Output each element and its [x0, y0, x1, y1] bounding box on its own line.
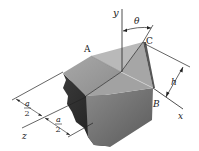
- x-axis-label: x: [178, 111, 183, 121]
- half-a-numerator-2: a: [56, 115, 61, 124]
- half-a-numerator-1: a: [25, 99, 30, 108]
- a-ext-line-top: [12, 72, 63, 100]
- point-a-label: A: [83, 44, 91, 54]
- h-extension-line: [145, 44, 190, 67]
- theta-arrow-left-icon: [123, 29, 127, 33]
- front-face: [86, 88, 153, 147]
- prism-diagram: y θ C A B x h z a 2 a 2: [0, 0, 199, 151]
- y-axis-label: y: [112, 7, 119, 18]
- z-axis-label: z: [21, 131, 27, 141]
- theta-arc: [123, 27, 151, 31]
- h-label: h: [171, 77, 177, 87]
- point-b-label: B: [152, 99, 160, 109]
- half-a-denominator-1: 2: [25, 109, 30, 118]
- theta-label: θ: [134, 16, 140, 26]
- half-a-denominator-2: 2: [56, 125, 61, 134]
- point-c-label: C: [146, 36, 153, 46]
